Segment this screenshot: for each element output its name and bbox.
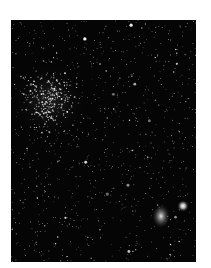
starfield-photo bbox=[11, 20, 196, 262]
cluster-haze bbox=[11, 61, 88, 139]
starfield-canvas bbox=[11, 20, 196, 262]
bright-star bbox=[177, 200, 189, 212]
page: Astronomical starfield photograph (no vi… bbox=[0, 0, 211, 268]
nebula-object bbox=[152, 203, 170, 227]
field-stars bbox=[11, 20, 196, 262]
image-caption: Astronomical starfield photograph (no vi… bbox=[0, 0, 1, 1]
